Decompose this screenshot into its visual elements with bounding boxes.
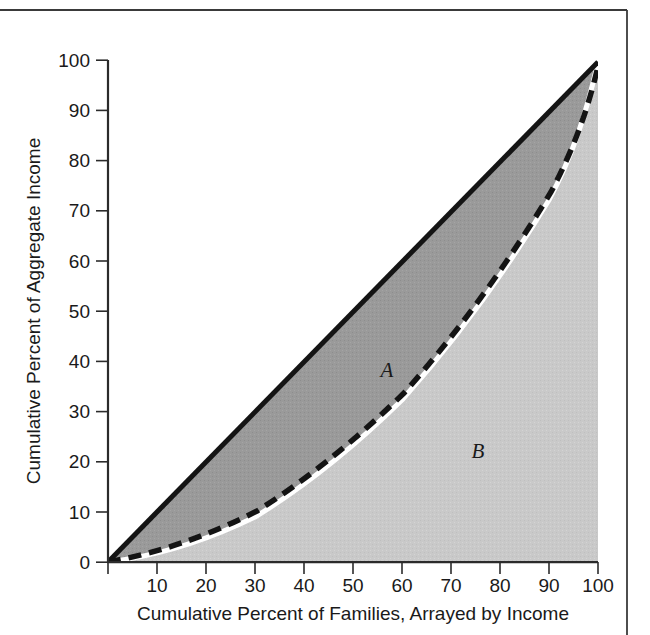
x-tick-label-100: 100 <box>582 575 614 596</box>
region-b-label: B <box>472 439 485 463</box>
x-tick-label-70: 70 <box>440 575 461 596</box>
y-tick-label-60: 60 <box>69 251 90 272</box>
x-tick-label-90: 90 <box>538 575 559 596</box>
lorenz-curve-figure: 100 90 80 70 60 50 40 30 20 10 0 <box>0 0 650 635</box>
y-tick-label-10: 10 <box>69 502 90 523</box>
y-tick-label-20: 20 <box>69 451 90 472</box>
x-tick-label-20: 20 <box>195 575 216 596</box>
x-tick-label-40: 40 <box>293 575 314 596</box>
y-axis: 100 90 80 70 60 50 40 30 20 10 0 <box>58 50 108 573</box>
x-tick-label-10: 10 <box>146 575 167 596</box>
y-tick-label-50: 50 <box>69 301 90 322</box>
y-axis-title: Cumulative Percent of Aggregate Income <box>23 138 44 484</box>
x-tick-label-60: 60 <box>391 575 412 596</box>
region-a-label: A <box>379 358 394 382</box>
y-tick-label-30: 30 <box>69 401 90 422</box>
x-tick-label-30: 30 <box>244 575 265 596</box>
y-tick-label-0: 0 <box>79 552 90 573</box>
y-tick-label-70: 70 <box>69 200 90 221</box>
y-tick-label-80: 80 <box>69 150 90 171</box>
y-tick-label-40: 40 <box>69 351 90 372</box>
x-axis-title: Cumulative Percent of Families, Arrayed … <box>137 603 569 624</box>
y-tick-label-100: 100 <box>58 50 90 71</box>
x-tick-label-50: 50 <box>342 575 363 596</box>
chart-canvas: 100 90 80 70 60 50 40 30 20 10 0 <box>0 0 650 635</box>
x-axis: 10 20 30 40 50 60 70 80 90 100 <box>107 562 614 596</box>
x-tick-label-80: 80 <box>489 575 510 596</box>
y-tick-label-90: 90 <box>69 100 90 121</box>
